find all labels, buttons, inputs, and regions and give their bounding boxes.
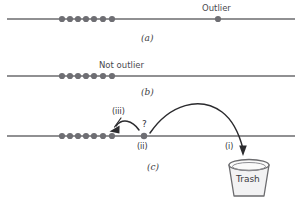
panel-c-caption: (c) xyxy=(147,163,159,172)
data-dot xyxy=(59,73,65,79)
outlier-figure: Outlier (a) Not outlier (b) (iii) ? (ii)… xyxy=(0,0,300,202)
trash-label: Trash xyxy=(236,175,260,184)
data-dot xyxy=(91,16,97,22)
step-ii-label: (ii) xyxy=(137,143,148,151)
data-dot xyxy=(109,73,115,79)
outlier-label: Outlier xyxy=(202,4,231,13)
not-outlier-label: Not outlier xyxy=(99,61,144,70)
data-dot xyxy=(91,133,97,139)
data-dot xyxy=(100,73,106,79)
data-dot xyxy=(67,133,73,139)
panel-c-group xyxy=(7,104,295,156)
panel-a-group xyxy=(7,16,295,22)
data-dot xyxy=(83,73,89,79)
data-dot xyxy=(83,133,89,139)
step-iii-label: (iii) xyxy=(112,108,125,116)
candidate-dot xyxy=(141,133,147,139)
panel-b-caption: (b) xyxy=(141,88,154,97)
data-dot xyxy=(75,133,81,139)
data-dot xyxy=(75,73,81,79)
data-dot xyxy=(91,73,97,79)
data-dot xyxy=(75,16,81,22)
data-dot xyxy=(109,16,115,22)
data-dot xyxy=(100,133,106,139)
data-dot xyxy=(100,16,106,22)
data-dot xyxy=(59,16,65,22)
data-dot xyxy=(59,133,65,139)
step-i-label: (i) xyxy=(225,143,233,151)
data-dot xyxy=(83,16,89,22)
outlier-dot xyxy=(215,16,221,22)
data-dot xyxy=(67,16,73,22)
data-dot xyxy=(67,73,73,79)
data-dot xyxy=(109,133,115,139)
question-mark-label: ? xyxy=(142,120,147,129)
discard-arrowhead xyxy=(239,146,247,156)
panel-a-caption: (a) xyxy=(141,34,153,43)
panel-b-group xyxy=(7,73,295,79)
